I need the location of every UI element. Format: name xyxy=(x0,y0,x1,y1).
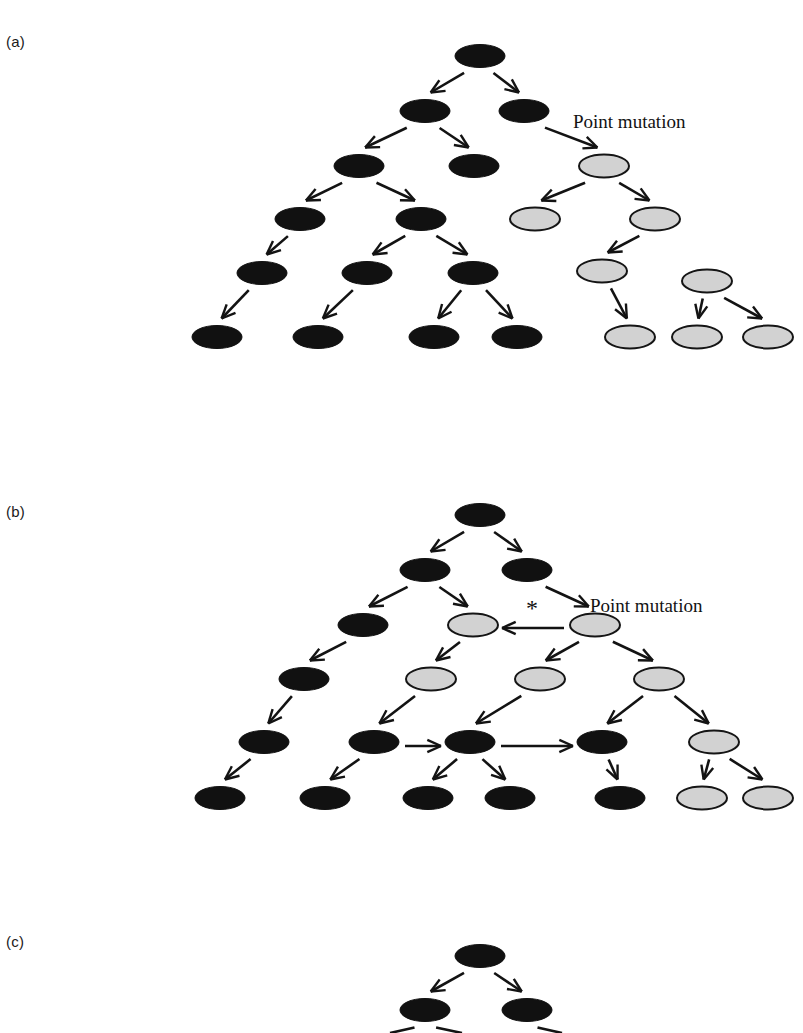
arrow-b-14-shaft xyxy=(675,696,709,723)
cell-mutant-a3d xyxy=(630,208,680,231)
cell-normal-b5a xyxy=(195,787,245,810)
cell-normal-a5d xyxy=(492,326,542,349)
arrow-a-19-barb-right xyxy=(747,317,762,318)
arrow-a-7-shaft xyxy=(541,183,585,201)
arrow-a-4-shaft xyxy=(545,128,597,148)
arrow-b-0-shaft xyxy=(431,532,464,552)
panel-c-graphics xyxy=(390,945,562,1033)
arrow-a-5-shaft xyxy=(306,183,342,201)
cell-normal-b5b xyxy=(300,787,350,810)
cell-mutant-a5f xyxy=(672,326,722,349)
cell-normal-b4a xyxy=(239,731,289,754)
arrow-b-8-shaft xyxy=(546,642,579,661)
cell-mutant-a4d xyxy=(577,260,627,283)
arrow-a-19-shaft xyxy=(724,298,762,319)
cell-normal-c1b xyxy=(502,999,552,1022)
cell-normal-b5e xyxy=(595,787,645,810)
cell-normal-a5a xyxy=(192,326,242,349)
cell-mutant-b3b xyxy=(406,668,456,691)
cell-normal-b5c xyxy=(403,787,453,810)
arrow-a-8-barb-right xyxy=(635,199,650,201)
cell-normal-b4c xyxy=(445,731,495,754)
cell-normal-b1b xyxy=(502,559,552,582)
cell-mutant-b4e xyxy=(689,731,739,754)
arrow-b-13-shaft xyxy=(607,696,643,724)
panel-a-graphics xyxy=(192,45,793,349)
cell-mutant-b3d xyxy=(634,668,684,691)
arrow-a-2-shaft xyxy=(365,128,407,148)
cell-mutant-a5e xyxy=(605,326,655,349)
cell-mutant-a4e xyxy=(682,270,732,293)
cell-mutant-a5g xyxy=(743,326,793,349)
cell-normal-b4b xyxy=(349,731,399,754)
arrow-b-6-shaft xyxy=(310,642,346,661)
arrow-a-6-shaft xyxy=(377,183,415,201)
cell-normal-a5c xyxy=(409,326,459,349)
arrow-c-0-shaft xyxy=(431,973,464,992)
cell-normal-a3a xyxy=(275,208,325,231)
arrow-c-3-shaft xyxy=(436,1028,462,1033)
cell-normal-b2a xyxy=(338,614,388,637)
cell-mutant-b2c xyxy=(570,614,620,637)
arrow-c-2-shaft xyxy=(390,1028,415,1033)
cell-normal-b4d xyxy=(577,731,627,754)
cell-normal-a4c xyxy=(448,262,498,285)
arrow-a-17-barb-left xyxy=(626,304,627,319)
panel-b-nodes xyxy=(195,504,793,810)
lineage-tree-graphics xyxy=(0,0,803,1033)
panel-b-graphics xyxy=(195,504,793,810)
cell-mutant-a3c xyxy=(510,208,560,231)
arrow-b-2-barb-left xyxy=(369,606,384,607)
cell-mutant-b2b xyxy=(448,614,498,637)
cell-normal-a0 xyxy=(455,45,505,68)
arrow-b-2-shaft xyxy=(369,587,408,607)
arrow-a-4-barb-right xyxy=(582,148,597,149)
arrow-b-6-barb-left xyxy=(310,660,325,661)
cell-normal-a1b xyxy=(499,100,549,123)
arrow-a-12-shaft xyxy=(608,236,640,253)
cell-normal-a4b xyxy=(342,262,392,285)
cell-normal-a3b xyxy=(396,208,446,231)
cell-mutant-b3c xyxy=(515,668,565,691)
arrow-a-10-shaft xyxy=(373,236,406,255)
cell-normal-a4a xyxy=(237,262,287,285)
arrow-a-5-barb-left xyxy=(306,200,321,201)
arrow-a-12-barb-left xyxy=(608,252,623,253)
arrow-b-9-shaft xyxy=(613,642,653,661)
arrow-b-22-barb-right xyxy=(701,765,703,780)
arrow-a-0-shaft xyxy=(431,73,464,93)
arrow-b-12-shaft xyxy=(476,696,521,724)
arrow-b-4-shaft xyxy=(546,587,589,607)
cell-normal-c1a xyxy=(400,999,450,1022)
cell-normal-b5d xyxy=(485,787,535,810)
cell-normal-b1a xyxy=(400,559,450,582)
cell-normal-a5b xyxy=(293,326,343,349)
arrow-a-14-shaft xyxy=(323,290,353,318)
arrow-a-11-shaft xyxy=(436,236,467,255)
cell-mutant-b5g xyxy=(743,787,793,810)
arrow-a-7-barb-left xyxy=(541,201,556,202)
cell-normal-a1a xyxy=(400,100,450,123)
arrow-a-8-shaft xyxy=(619,183,649,201)
cell-normal-c0 xyxy=(455,945,505,968)
panel-c-nodes xyxy=(400,945,552,1022)
cell-normal-b3a xyxy=(279,668,329,691)
arrow-c-4-shaft xyxy=(538,1028,563,1033)
cell-normal-a2b xyxy=(449,155,499,178)
cell-mutant-b5f xyxy=(677,787,727,810)
arrow-a-17-shaft xyxy=(611,288,627,318)
figure-canvas: (a) (b) (c) Point mutation Point mutatio… xyxy=(0,0,803,1033)
cell-mutant-a2c xyxy=(579,155,629,178)
arrow-a-18-barb-right xyxy=(695,304,698,319)
arrow-b-11-shaft xyxy=(379,696,415,724)
cell-normal-a2a xyxy=(334,155,384,178)
arrow-b-23-shaft xyxy=(730,759,763,780)
cell-normal-b0 xyxy=(455,504,505,527)
